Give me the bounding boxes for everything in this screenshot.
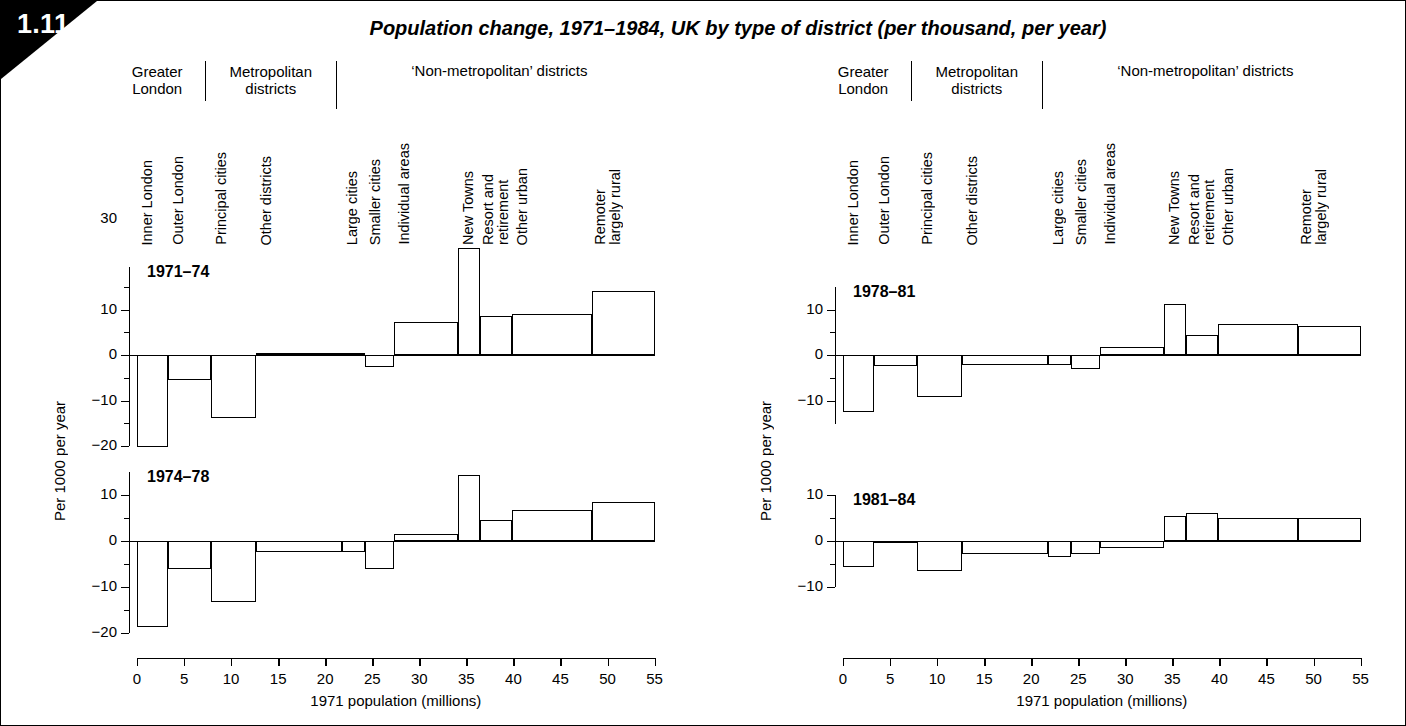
x-tick-label: 15 bbox=[258, 670, 298, 687]
y-tick-major bbox=[121, 587, 129, 588]
y-tick-major bbox=[827, 587, 835, 588]
x-tick bbox=[890, 658, 891, 666]
x-tick bbox=[1078, 658, 1079, 666]
bar-other-urban bbox=[1218, 518, 1299, 541]
x-tick bbox=[137, 658, 138, 666]
y-tick-major bbox=[827, 495, 835, 496]
y-tick-major bbox=[121, 633, 129, 634]
chart-1981-84: 100−101981–8405101520253035404550551971 … bbox=[713, 1, 1406, 726]
x-tick bbox=[1219, 658, 1220, 666]
bar-smaller-cities bbox=[365, 541, 394, 569]
y-tick-label: 0 bbox=[59, 531, 117, 548]
x-tick bbox=[984, 658, 985, 666]
x-tick bbox=[231, 658, 232, 666]
y-tick-major bbox=[121, 495, 129, 496]
x-axis-line bbox=[843, 658, 1361, 659]
bar-smaller-cities bbox=[1071, 541, 1100, 554]
bar-principal-cities bbox=[211, 541, 255, 602]
panel-left: Greater LondonMetropolitan districts‘Non… bbox=[7, 1, 701, 726]
figure-page: 1.11 Population change, 1971–1984, UK by… bbox=[0, 0, 1406, 726]
x-tick bbox=[655, 658, 656, 666]
x-tick-label: 35 bbox=[1152, 670, 1192, 687]
x-tick-label: 5 bbox=[164, 670, 204, 687]
x-tick-label: 50 bbox=[1294, 670, 1334, 687]
x-tick-label: 30 bbox=[399, 670, 439, 687]
y-tick-minor bbox=[830, 518, 835, 519]
x-tick-label: 20 bbox=[1011, 670, 1051, 687]
x-tick bbox=[372, 658, 373, 666]
x-tick-label: 55 bbox=[635, 670, 675, 687]
bar-inner-london bbox=[843, 541, 874, 567]
x-tick bbox=[419, 658, 420, 666]
bar-remoter-largely-rural bbox=[1298, 518, 1360, 541]
x-tick bbox=[1266, 658, 1267, 666]
x-tick-label: 25 bbox=[1058, 670, 1098, 687]
x-tick bbox=[513, 658, 514, 666]
bar-other-districts bbox=[256, 541, 343, 552]
bar-outer-london bbox=[168, 541, 211, 569]
x-tick-label: 45 bbox=[1246, 670, 1286, 687]
x-tick-label: 30 bbox=[1105, 670, 1145, 687]
bar-new-towns bbox=[1164, 516, 1187, 541]
y-tick-label: −20 bbox=[59, 623, 117, 640]
x-tick-label: 45 bbox=[540, 670, 580, 687]
bar-large-cities bbox=[1048, 541, 1071, 557]
y-tick-label: −10 bbox=[59, 577, 117, 594]
y-tick-minor bbox=[124, 518, 129, 519]
x-tick-label: 40 bbox=[493, 670, 533, 687]
x-tick bbox=[560, 658, 561, 666]
chart-1974-78: 100−10−201974–78051015202530354045505519… bbox=[7, 1, 701, 726]
bar-other-districts bbox=[962, 541, 1049, 554]
y-tick-minor bbox=[124, 610, 129, 611]
bar-resort-and-retirement bbox=[480, 520, 511, 541]
x-tick-label: 20 bbox=[305, 670, 345, 687]
x-axis-label: 1971 population (millions) bbox=[843, 692, 1361, 709]
x-tick-label: 25 bbox=[352, 670, 392, 687]
bar-outer-london bbox=[874, 541, 917, 543]
bar-individual-areas bbox=[1100, 541, 1164, 548]
x-axis-line bbox=[137, 658, 655, 659]
x-tick bbox=[325, 658, 326, 666]
y-tick-label: 0 bbox=[765, 531, 823, 548]
y-tick-major bbox=[827, 541, 835, 542]
x-tick-label: 15 bbox=[964, 670, 1004, 687]
x-tick bbox=[466, 658, 467, 666]
x-tick bbox=[184, 658, 185, 666]
y-tick-label: −10 bbox=[765, 577, 823, 594]
bar-inner-london bbox=[137, 541, 168, 627]
x-tick bbox=[278, 658, 279, 666]
y-axis-label: Per 1000 per year bbox=[757, 321, 774, 521]
period-label: 1981–84 bbox=[853, 491, 915, 509]
x-tick-label: 0 bbox=[823, 670, 863, 687]
x-tick-label: 40 bbox=[1199, 670, 1239, 687]
bar-resort-and-retirement bbox=[1186, 513, 1217, 541]
y-axis-label: Per 1000 per year bbox=[51, 321, 68, 521]
y-tick-minor bbox=[830, 564, 835, 565]
y-tick-major bbox=[121, 541, 129, 542]
x-tick bbox=[1361, 658, 1362, 666]
x-tick bbox=[843, 658, 844, 666]
panel-right: Greater LondonMetropolitan districts‘Non… bbox=[713, 1, 1406, 726]
x-tick bbox=[1031, 658, 1032, 666]
x-tick bbox=[608, 658, 609, 666]
x-axis-label: 1971 population (millions) bbox=[137, 692, 655, 709]
x-tick-label: 35 bbox=[446, 670, 486, 687]
x-tick bbox=[1172, 658, 1173, 666]
x-tick bbox=[1314, 658, 1315, 666]
bar-remoter-largely-rural bbox=[592, 502, 654, 541]
bar-individual-areas bbox=[394, 534, 458, 541]
x-tick-label: 10 bbox=[211, 670, 251, 687]
bar-large-cities bbox=[342, 541, 365, 552]
x-tick bbox=[1125, 658, 1126, 666]
x-tick-label: 0 bbox=[117, 670, 157, 687]
x-tick-label: 55 bbox=[1341, 670, 1381, 687]
y-tick-minor bbox=[124, 564, 129, 565]
period-label: 1974–78 bbox=[147, 468, 209, 486]
x-tick-label: 10 bbox=[917, 670, 957, 687]
x-tick bbox=[937, 658, 938, 666]
x-tick-label: 5 bbox=[870, 670, 910, 687]
bar-principal-cities bbox=[917, 541, 961, 571]
bar-other-urban bbox=[512, 510, 593, 541]
bar-new-towns bbox=[458, 475, 481, 541]
y-axis-line bbox=[129, 472, 130, 633]
